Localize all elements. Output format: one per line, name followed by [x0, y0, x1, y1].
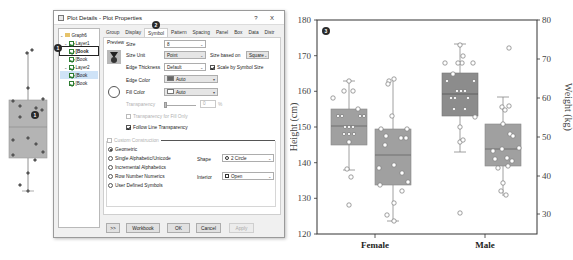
tree-item-layer2[interactable]: ⌄ Layer2	[60, 63, 98, 71]
tree-label: [Book	[76, 73, 88, 78]
tab-display[interactable]: Display	[122, 28, 144, 37]
tab-symbol[interactable]: Symbol	[144, 28, 168, 37]
tree-label: Layer1	[76, 41, 90, 46]
edge-color-swatch	[167, 76, 174, 81]
size-value: 8	[167, 42, 170, 47]
shape-label: Shape	[197, 157, 211, 162]
radio-geometric[interactable]	[108, 147, 113, 152]
y-tick-140: 140	[298, 158, 312, 168]
radio-single-alphabetic-label: Single Alphabetic/Unicode	[115, 156, 171, 161]
y2-tick-40: 40	[542, 171, 552, 181]
y-tick-130: 130	[298, 193, 312, 203]
workbook-button[interactable]: Workbook	[126, 223, 160, 233]
cancel-button[interactable]: Cancel	[196, 223, 221, 233]
radio-single-alphabetic[interactable]	[108, 156, 113, 161]
shape-combo[interactable]: 2 Circle⌄	[222, 154, 274, 162]
transparency-fill-only-checkbox[interactable]	[126, 114, 131, 119]
layer-checkbox[interactable]	[69, 41, 74, 46]
transparency-fill-only-label: Transparency for Fill Only	[133, 114, 188, 119]
plot-checkbox[interactable]	[69, 49, 74, 54]
y-axis-label-right: Weight (kg)	[562, 83, 573, 131]
follow-line-transparency-label: Follow Line Transparency	[133, 125, 188, 130]
tree-label: [Book	[76, 57, 88, 62]
y2-tick-30: 30	[542, 209, 552, 219]
tree-label: Layer2	[76, 65, 90, 70]
tree-item-layer1[interactable]: ⌄ Layer1	[60, 39, 98, 47]
radio-incremental-alphabetics-label: Incremental Alphabetics	[115, 165, 166, 170]
edge-thickness-combo[interactable]: Default⌄	[164, 63, 206, 71]
y2-tick-60: 60	[542, 93, 552, 103]
dialog-title: Plot Details - Plot Properties	[67, 15, 248, 21]
open-square-icon	[225, 174, 229, 178]
tree-item-plot[interactable]: [Book	[60, 55, 98, 63]
tree-item-plot-selected[interactable]: [Book	[60, 47, 98, 55]
folder-icon	[65, 33, 70, 37]
y-tick-180: 180	[298, 15, 312, 25]
mini-box-plot-preview: 1	[0, 0, 60, 260]
tree-label: [Book	[76, 81, 88, 86]
tab-strip: Group Display Symbol Pattern Spacing Pan…	[103, 28, 281, 38]
size-based-on-value: Square	[249, 53, 264, 58]
edge-color-combo[interactable]: Auto▾	[164, 75, 218, 83]
step-badge-tab: 2	[152, 21, 160, 29]
tab-pattern[interactable]: Pattern	[168, 28, 189, 37]
transparency-spinbox[interactable]: 0	[200, 100, 216, 108]
circle-shape-icon	[225, 156, 229, 160]
plot-checkbox[interactable]	[69, 73, 74, 78]
transparency-slider-thumb[interactable]	[164, 102, 167, 108]
radio-row-number-numerics-label: Row Number Numerics	[115, 174, 165, 179]
collapse-button[interactable]: >>	[106, 223, 120, 233]
caret-down-icon: ▾	[213, 90, 215, 95]
fill-color-value-wrap: Auto	[167, 89, 185, 95]
tab-data[interactable]: Data	[245, 28, 261, 37]
plot-details-dialog: Plot Details - Plot Properties ? X ⌄ Gra…	[53, 10, 285, 238]
x-tick-male: Male	[475, 240, 495, 250]
layer-tree[interactable]: ⌄ Graph6 ⌄ Layer1 [Book [Book ⌄ Layer2 […	[58, 28, 100, 228]
tab-group[interactable]: Group	[103, 28, 122, 37]
size-unit-combo[interactable]: Point⌄	[164, 51, 206, 59]
size-based-on-combo[interactable]: Square⌄	[246, 51, 269, 59]
close-button[interactable]: X	[264, 15, 280, 21]
fill-color-label: Fill Color	[126, 90, 145, 95]
ok-button[interactable]: OK	[167, 223, 190, 233]
tab-box[interactable]: Box	[231, 28, 245, 37]
layer-checkbox[interactable]	[69, 65, 74, 70]
fill-color-combo[interactable]: Auto▾	[164, 88, 218, 96]
plot-checkbox[interactable]	[69, 57, 74, 62]
size-combo[interactable]: 8⌄	[164, 40, 206, 48]
transparency-slider[interactable]	[164, 105, 196, 106]
chevron-down-icon: ⌄	[200, 42, 203, 47]
tab-panel[interactable]: Panel	[213, 28, 231, 37]
symbol-preview	[107, 50, 121, 64]
tree-item-graph[interactable]: ⌄ Graph6	[60, 31, 98, 39]
radio-row-number-numerics[interactable]	[108, 174, 113, 179]
step-badge-3: 3	[322, 27, 330, 35]
interior-combo[interactable]: Open⌄	[222, 172, 274, 180]
plot-checkbox[interactable]	[69, 81, 74, 86]
edge-thickness-label: Edge Thickness	[126, 65, 160, 70]
transparency-value: 0	[203, 101, 206, 106]
tab-spacing[interactable]: Spacing	[190, 28, 213, 37]
radio-user-defined-symbols-label: User Defined Symbols	[115, 183, 163, 188]
tab-distribution[interactable]: Distr	[262, 28, 278, 37]
fill-color-value: Auto	[176, 90, 185, 95]
scale-by-symbol-checkbox[interactable]	[210, 65, 215, 70]
apply-button[interactable]: Apply	[229, 223, 254, 233]
tree-item-plot-highlighted[interactable]: [Book	[60, 71, 98, 79]
step-badge-tree: 1	[54, 44, 62, 52]
box-plot-chart: 120 130 140 150 160 170 180 80 70 60 50 …	[290, 0, 573, 260]
tree-item-plot[interactable]: [Book	[60, 79, 98, 87]
help-button[interactable]: ?	[248, 15, 264, 21]
transparency-unit: %	[218, 102, 222, 107]
y-tick-170: 170	[298, 51, 312, 61]
edge-color-value-wrap: Auto	[167, 76, 185, 82]
chevron-down-icon: ⌄	[200, 53, 203, 58]
radio-incremental-alphabetics[interactable]	[108, 165, 113, 170]
size-unit-value: Point	[167, 53, 177, 58]
edge-color-value: Auto	[176, 77, 185, 82]
symbol-preview-icon	[107, 50, 121, 64]
y-tick-150: 150	[298, 122, 312, 132]
follow-line-transparency-checkbox[interactable]	[126, 125, 131, 130]
symbol-panel: Preview Size 8⌄ Size Unit Point⌄ Size ba…	[103, 38, 281, 215]
radio-user-defined-symbols[interactable]	[108, 183, 113, 188]
